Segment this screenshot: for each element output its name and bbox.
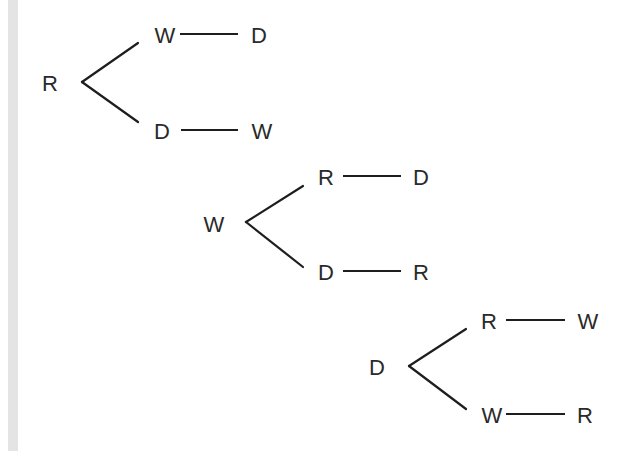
node-label: R: [481, 309, 497, 334]
branch-upper: [246, 186, 303, 222]
root-label: D: [369, 355, 385, 380]
node-label: D: [318, 260, 334, 285]
branch-upper: [409, 329, 466, 366]
node-label: W: [482, 403, 503, 428]
permutation-tree-diagram: R W D D W W R D D R D R W W R: [0, 0, 639, 451]
tree-root-d: D R W W R: [369, 309, 599, 428]
branch-lower: [82, 82, 138, 122]
leaf-label: D: [251, 23, 267, 48]
leaf-label: R: [577, 403, 593, 428]
node-label: D: [154, 119, 170, 144]
root-label: R: [42, 71, 58, 96]
leaf-label: W: [578, 309, 599, 334]
leaf-label: D: [413, 165, 429, 190]
tree-root-r: R W D D W: [42, 23, 273, 144]
branch-lower: [409, 366, 466, 409]
leaf-label: W: [252, 119, 273, 144]
branch-lower: [246, 222, 303, 267]
tree-root-w: W R D D R: [204, 165, 429, 285]
leaf-label: R: [413, 260, 429, 285]
node-label: W: [155, 23, 176, 48]
branch-upper: [82, 43, 138, 82]
root-label: W: [204, 212, 225, 237]
node-label: R: [318, 165, 334, 190]
